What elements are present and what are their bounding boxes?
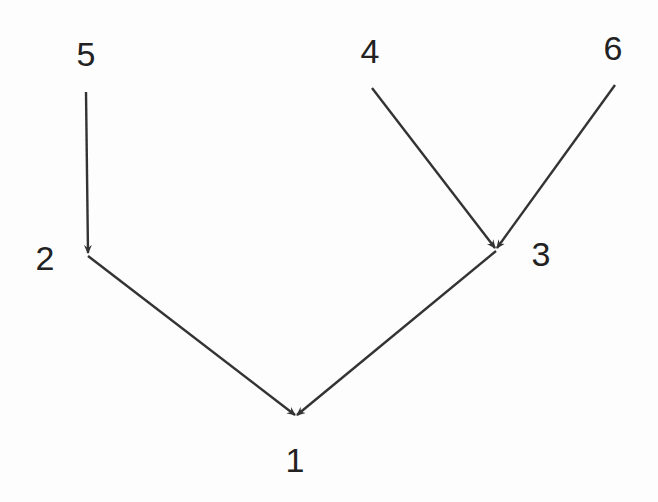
edge-4-to-3-arrow [372, 88, 495, 248]
node-label-6: 6 [604, 31, 623, 65]
edges-layer [0, 0, 658, 502]
tree-diagram: 5 4 6 2 3 1 [0, 0, 658, 502]
node-label-5: 5 [77, 37, 96, 71]
edge-5-to-2-arrow [86, 92, 88, 253]
node-label-4: 4 [361, 34, 380, 68]
node-label-2: 2 [36, 241, 55, 275]
node-label-1: 1 [286, 443, 305, 477]
edge-2-to-1-arrow [88, 256, 295, 415]
edge-3-to-1-arrow [297, 251, 496, 415]
edge-6-to-3-arrow [497, 85, 615, 248]
node-label-3: 3 [532, 237, 551, 271]
